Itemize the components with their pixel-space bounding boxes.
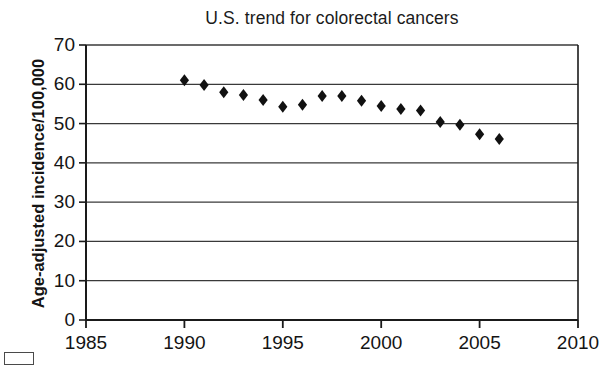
data-point-1999 <box>357 95 366 107</box>
x-tick-label-1985: 1985 <box>51 332 121 354</box>
x-tick-label-2005: 2005 <box>445 332 515 354</box>
y-tick-label-30: 30 <box>35 191 75 213</box>
data-point-1991 <box>199 79 208 91</box>
data-points <box>180 74 504 145</box>
data-point-1995 <box>278 101 287 113</box>
axis-lines <box>86 45 578 320</box>
data-point-2005 <box>475 128 484 140</box>
data-point-1992 <box>219 86 228 98</box>
chart-container: U.S. trend for colorectal cancers Age-ad… <box>0 0 616 367</box>
y-tick-label-70: 70 <box>35 34 75 56</box>
data-point-1998 <box>337 90 346 102</box>
data-point-2000 <box>377 100 386 112</box>
scan-corner-mark <box>4 352 34 365</box>
x-tick-label-2000: 2000 <box>346 332 416 354</box>
y-tick-label-20: 20 <box>35 230 75 252</box>
data-point-2004 <box>455 119 464 131</box>
x-tick-label-1990: 1990 <box>149 332 219 354</box>
data-point-2006 <box>495 133 504 145</box>
data-point-2001 <box>396 103 405 115</box>
plot-area <box>0 0 616 367</box>
y-tick-label-0: 0 <box>35 309 75 331</box>
y-tick-label-40: 40 <box>35 152 75 174</box>
data-point-1994 <box>259 94 268 106</box>
y-tick-label-50: 50 <box>35 113 75 135</box>
data-point-1996 <box>298 99 307 111</box>
y-tick-label-10: 10 <box>35 270 75 292</box>
x-tick-label-1995: 1995 <box>248 332 318 354</box>
data-point-2002 <box>416 105 425 117</box>
data-point-1993 <box>239 89 248 101</box>
y-tick-label-60: 60 <box>35 73 75 95</box>
axis-tick-marks <box>79 45 578 328</box>
x-tick-label-2010: 2010 <box>543 332 613 354</box>
data-point-2003 <box>436 116 445 128</box>
gridlines <box>86 45 578 320</box>
data-point-1997 <box>318 90 327 102</box>
